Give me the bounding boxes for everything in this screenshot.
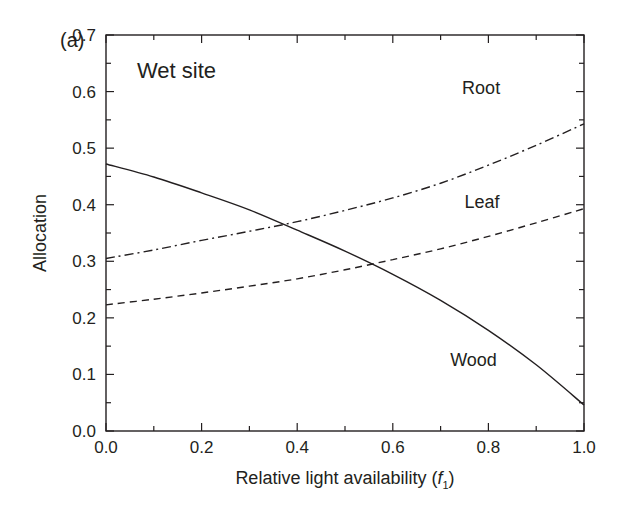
x-tick-label: 0.2 bbox=[190, 438, 214, 457]
series-label-root: Root bbox=[462, 78, 500, 98]
site-annotation: Wet site bbox=[137, 58, 216, 83]
x-tick-label: 0.4 bbox=[285, 438, 309, 457]
x-tick-label: 0.6 bbox=[381, 438, 405, 457]
curves bbox=[106, 124, 584, 405]
x-tick-label: 0.8 bbox=[477, 438, 501, 457]
x-tick-label: 0.0 bbox=[94, 438, 118, 457]
axes: 0.00.20.40.60.81.00.00.10.20.30.40.50.60… bbox=[72, 26, 595, 457]
series-leaf-line bbox=[106, 209, 584, 305]
series-label-wood: Wood bbox=[450, 350, 497, 370]
y-tick-label: 0.4 bbox=[72, 196, 96, 215]
series-label-leaf: Leaf bbox=[465, 192, 501, 212]
y-tick-label: 0.2 bbox=[72, 309, 96, 328]
y-axis-title: Allocation bbox=[30, 194, 50, 272]
plot-frame bbox=[106, 35, 584, 431]
y-tick-label: 0.1 bbox=[72, 365, 96, 384]
y-tick-label: 0.0 bbox=[72, 422, 96, 441]
x-tick-label: 1.0 bbox=[572, 438, 596, 457]
series-labels: RootLeafWood bbox=[450, 78, 500, 370]
y-tick-label: 0.6 bbox=[72, 83, 96, 102]
y-tick-label: 0.5 bbox=[72, 139, 96, 158]
series-wood-line bbox=[106, 164, 584, 405]
y-tick-label: 0.3 bbox=[72, 252, 96, 271]
allocation-chart: 0.00.20.40.60.81.00.00.10.20.30.40.50.60… bbox=[0, 0, 626, 515]
panel-label: (a) bbox=[60, 29, 84, 51]
series-root-line bbox=[106, 124, 584, 259]
x-axis-title: Relative light availability (f1) bbox=[235, 468, 454, 491]
